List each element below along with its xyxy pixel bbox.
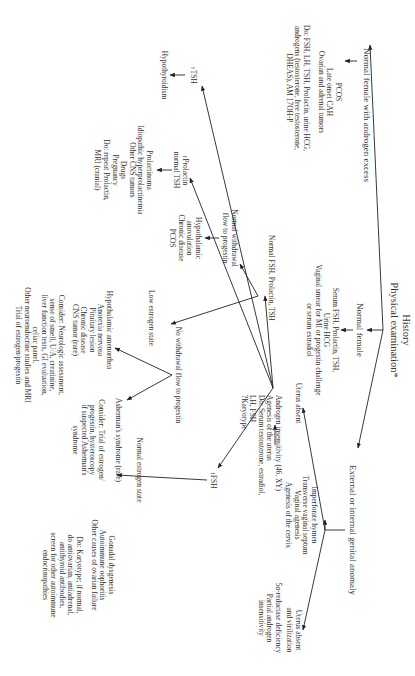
- node-withdrawal: Normal withdrawal flow to progestin: [221, 209, 238, 267]
- node-withdrawal-causes: Hypothalamic anovulation Chronic disease…: [168, 215, 202, 262]
- ais-cause-4: LH, FSH: [248, 395, 257, 495]
- cause-tumors: Ovarian and adrenal tumors: [316, 51, 325, 133]
- prolactin-cause-2: Idiopathic hyperprolactinemia: [136, 125, 145, 214]
- low-estrogen-cause-1: Hypothalamic amenorrhea: [104, 291, 113, 370]
- outflow-cause-2: Vaginal agenesis: [292, 476, 301, 555]
- low-estrogen-cause-2: Anorexia nervosa: [96, 291, 105, 370]
- fsh-cause-3: Other causes of ovarian failure: [89, 519, 98, 610]
- fsh-workup-2: do antiovarian, antiadrenal,: [66, 532, 75, 617]
- tests-line-1: Serum FSH, Prolactin, TSH,: [330, 265, 339, 396]
- workup-line-1: Do: FSH, LH, TSH, Prolactin, urine HCG,: [301, 25, 310, 151]
- uterus-absent-label: Uterus absent: [293, 383, 302, 423]
- fsh-label: FSH: [209, 475, 218, 489]
- tests-line-3: Vaginal smear for MI or progestin challe…: [313, 265, 322, 396]
- virilization-cause-3: insensitivity: [256, 583, 265, 654]
- node-androgen-causes: PCOS Late onset CAH Ovarian and adrenal …: [316, 51, 342, 133]
- node-virilization-causes: 5α-reductase deficiency Partial androgen…: [256, 583, 282, 654]
- consider-asherman-4: syndrome: [71, 399, 80, 481]
- consider-neuro-3: liver function tests, GI evaluation,: [39, 287, 48, 402]
- node-fsh: ↑FSH: [208, 471, 217, 488]
- node-normal-labs: Normal FSH, Prolactin, TSH: [266, 235, 275, 321]
- withdrawal-line-2: flow to progestin: [221, 209, 230, 267]
- imperforate-hymen-label: Imperforate hymen: [309, 476, 318, 555]
- edge-nowd-to-low-estrogen: [115, 348, 172, 375]
- outflow-cause-3: Agenesis of the cervix: [284, 476, 293, 555]
- genital-anomaly-label: External or internal genital anomaly: [348, 465, 359, 595]
- node-androgen-excess: Normal female with androgen excess: [362, 48, 373, 182]
- node-genital-anomaly: External or internal genital anomaly: [348, 465, 359, 595]
- node-initial-tests: Serum FSH, Prolactin, TSH, Urine HCG Vag…: [305, 265, 339, 396]
- tsh-label: TSH: [189, 70, 198, 84]
- ais-cause-2: Agenesis of the uterus: [265, 395, 274, 495]
- ais-cause-5: ?Karyotype: [239, 395, 248, 495]
- normal-labs-label: Normal FSH, Prolactin, TSH: [266, 235, 275, 321]
- consider-neuro-6: Trial of estrogen/progestin: [13, 287, 22, 402]
- root-history-exam: History Physical examination*: [388, 282, 412, 377]
- node-low-estrogen: Low estrogen state: [146, 290, 155, 346]
- ais-cause-1: Androgen insensitivity (46, XY): [273, 395, 282, 495]
- node-asherman: Asherman's syndrome (rare): [113, 398, 122, 482]
- node-low-estrogen-causes: Hypothalamic amenorrhea Anorexia nervosa…: [70, 291, 113, 370]
- normal-estrogen-label: Normal estrogen state: [134, 438, 143, 503]
- prolactin-label: Prolactin: [181, 158, 190, 185]
- tests-line-2: Urine HCG: [322, 265, 331, 396]
- node-hypothyroidism: Hypothyroidism: [159, 51, 168, 99]
- tests-line-4: or serum estradiol: [305, 265, 314, 396]
- node-prolactin: ↑Prolactin normal TSH: [172, 152, 189, 189]
- outflow-cause-1: Transverse vaginal septum: [301, 476, 310, 555]
- root-line-2: Physical examination*: [388, 282, 400, 377]
- consider-neuro-4: celiac panel.: [31, 287, 40, 402]
- edge-labs-to-withdrawal: [240, 264, 258, 296]
- withdrawal-cause-3: Chronic disease: [176, 215, 185, 262]
- fsh-workup-3: antithyroid antibodies,: [57, 532, 66, 617]
- consider-neuro-1: Consider: Neurologic assessment,: [56, 287, 65, 402]
- virilization-cause-1: 5α-reductase deficiency: [273, 583, 282, 654]
- node-normal-estrogen-consider: Consider: Trial of estrogen/ progestin, …: [71, 399, 105, 481]
- consider-neuro-5: Other neuroendocrine studies and MRI: [22, 287, 31, 402]
- low-estrogen-cause-3: Pituitary lesion: [87, 291, 96, 370]
- low-estrogen-cause-5: CNS tumor (rare): [70, 291, 79, 370]
- consider-asherman-3: if suspected Asherman's: [79, 399, 88, 481]
- consider-asherman-1: Consider: Trial of estrogen/: [96, 399, 105, 481]
- edge-fsh-to-causes: [117, 475, 207, 480]
- prolactin-cause-3: Other CNS tumors: [127, 125, 136, 214]
- normal-female-label: Normal female: [355, 303, 366, 357]
- edge-nowd-to-normal-estrogen: [127, 375, 172, 400]
- withdrawal-line-1: Normal withdrawal: [229, 209, 238, 267]
- no-withdrawal-label: No withdrawal flow to progestin: [173, 327, 182, 423]
- low-estrogen-cause-4: Chronic disease: [79, 291, 88, 370]
- prolactin-cause-1: Prolactinoma: [144, 125, 153, 214]
- prolactin-cause-5: Pregnancy: [110, 125, 119, 214]
- node-uterus-absent: Uterus absent: [293, 383, 302, 423]
- cause-pcos: PCOS: [333, 51, 342, 133]
- node-prolactin-causes: Prolactinoma Idiopathic hyperprolactinem…: [93, 125, 153, 214]
- node-fsh-causes: Gonadal dysgenesis Autoimmune oophoritis…: [89, 519, 115, 610]
- root-line-1: History: [400, 282, 412, 377]
- withdrawal-cause-2: anovulation: [185, 215, 194, 262]
- node-normal-female: Normal female: [355, 303, 366, 357]
- cause-late-cah: Late onset CAH: [325, 51, 334, 133]
- node-imperforate-hymen: Imperforate hymen Transverse vaginal sep…: [284, 476, 318, 555]
- prolactin-cause-4: Drugs: [119, 125, 128, 214]
- fsh-cause-1: Gonadal dysgenesis: [106, 519, 115, 610]
- node-uterus-absent-virilization: Uterus absent and virilization: [285, 608, 302, 653]
- consider-neuro-2: sense of smell, U/A, creatinine,: [48, 287, 57, 402]
- fsh-workup-1: Do: Karyotype; if normal,: [74, 532, 83, 617]
- node-fsh-workup: Do: Karyotype; if normal, do antiovarian…: [40, 532, 83, 617]
- withdrawal-cause-1: Hypothalamic: [193, 215, 202, 262]
- fsh-workup-4: screen for other autoimmune: [49, 532, 58, 617]
- uterus-virilization-line-1: Uterus absent: [293, 608, 302, 653]
- node-normal-estrogen: Normal estrogen state: [134, 438, 143, 503]
- virilization-cause-2: Partial androgen: [265, 583, 274, 654]
- uterus-virilization-line-2: and virilization: [285, 608, 294, 653]
- low-estrogen-label: Low estrogen state: [146, 290, 155, 346]
- asherman-label: Asherman's syndrome (rare): [113, 398, 122, 482]
- withdrawal-cause-4: PCOS: [168, 215, 177, 262]
- prolactin-cause-7: MRI (cranial): [93, 125, 102, 214]
- node-androgen-workup: Do: FSH, LH, TSH, Prolactin, urine HCG, …: [284, 25, 310, 151]
- edge-labs-to-no-withdrawal: [171, 296, 258, 324]
- node-ais-causes: Androgen insensitivity (46, XY) Agenesis…: [239, 395, 282, 495]
- node-no-withdrawal: No withdrawal flow to progestin: [173, 327, 182, 423]
- ais-cause-3: Do: Serum testosterone, estradiol,: [256, 395, 265, 495]
- node-low-estrogen-consider: Consider: Neurologic assessment, sense o…: [13, 287, 65, 402]
